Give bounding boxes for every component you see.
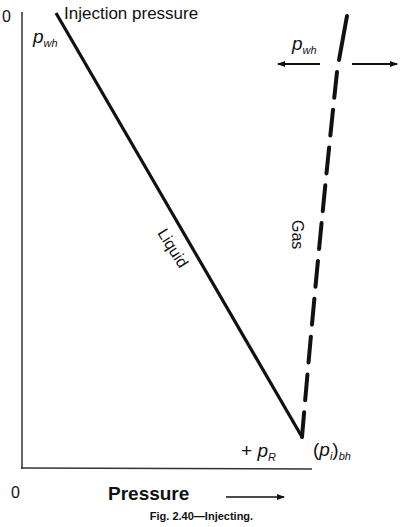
pibh-close-paren: ) — [332, 439, 338, 460]
pibh-inner-subscript: i — [330, 450, 332, 462]
reservoir-pressure-label: + pR — [241, 441, 276, 460]
injection-pressure-diagram: Injection pressure 0 0 pwh pwh Liquid Ga… — [0, 0, 403, 527]
pwh-subscript: wh — [303, 44, 317, 56]
pibh-subscript: bh — [339, 450, 351, 462]
x-axis — [21, 468, 312, 469]
pr-subscript: R — [268, 451, 276, 463]
pwh-main: p — [33, 26, 44, 47]
gas-line-top — [339, 16, 347, 60]
y-axis-origin-label: 0 — [2, 9, 11, 25]
diagram-title: Injection pressure — [64, 5, 198, 22]
pwh-subscript: wh — [44, 37, 58, 49]
x-axis-title: Pressure — [108, 484, 189, 503]
wellhead-pressure-label-liquid: pwh — [33, 27, 58, 46]
figure-caption: Fig. 2.40—Injecting. — [0, 511, 403, 522]
pr-main: p — [257, 440, 268, 461]
liquid-line — [56, 13, 302, 437]
gas-line-dashed — [302, 72, 337, 437]
wellhead-pressure-label-gas: pwh — [292, 34, 317, 53]
pibh-main: p — [319, 439, 330, 460]
pwh-main: p — [292, 33, 303, 54]
x-axis-origin-label: 0 — [11, 485, 20, 501]
pr-prefix: + — [241, 440, 257, 461]
bottomhole-injection-pressure-label: (pi)bh — [313, 440, 351, 459]
gas-curve-label: Gas — [289, 220, 305, 249]
